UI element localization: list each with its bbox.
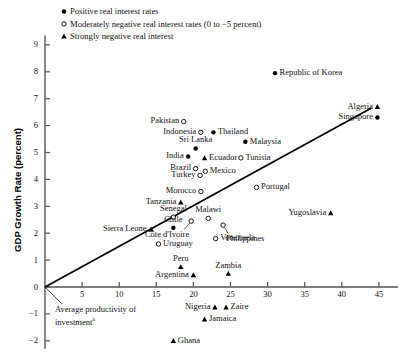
data-point-label-algeria: Algeria [347,102,373,111]
y-tick-label-−1: −1 [29,308,38,318]
data-point-label-pakistan: Pakistan [150,116,179,125]
y-tick-label-8: 8 [34,66,38,76]
data-point-label-republic-of-korea: Republic of Korea [280,68,343,77]
legend-label-0: Positive real interest rates [70,6,159,16]
data-point-label-india: India [166,151,183,160]
data-point-marker-singapore [375,115,379,119]
data-point-label-malaysia: Malaysia [250,137,281,146]
data-point-marker-morocco [199,189,203,193]
y-tick-label-4: 4 [34,174,38,184]
data-point-marker-zambia [226,271,231,276]
legend-label-2: Strongly negative real interest [70,31,173,41]
data-point-marker-portugal [254,185,258,189]
data-point-label-jamaica: Jamaica [209,314,236,323]
x-tick-label-45: 45 [375,289,384,299]
data-point-marker-philippines [221,223,225,227]
x-tick-label-10: 10 [115,289,124,299]
data-point-marker-sri-lanka [193,146,197,150]
data-point-label-yugoslavia: Yugoslavia [288,208,326,217]
data-point-label-venezuela: Venezuela [220,233,255,242]
data-point-marker-pakistan [182,119,186,123]
data-point-label-chile: Chile [164,215,182,224]
y-tick-label-1: 1 [34,255,38,265]
data-point-marker-tunisia [239,156,243,160]
data-point-label-malawi: Malawi [195,205,221,214]
y-tick-label-9: 9 [34,39,38,49]
data-point-label-senegal: Senegal [160,204,187,213]
data-point-label-argentina: Argentina [155,270,189,279]
y-tick-label-3: 3 [34,201,38,211]
data-point-marker-malawi [206,216,210,220]
x-tick-label-35: 35 [300,289,309,299]
data-point-label-nigeria: Nigeria [185,302,211,311]
data-point-marker-yugoslavia [328,210,333,215]
x-tick-label-30: 30 [263,289,272,299]
data-point-label-zambia: Zambia [215,261,241,270]
data-point-marker-zaire [223,304,228,309]
chart-figure: GDP Growth Rate (percent) 9876543210−1−2… [0,0,398,363]
data-point-marker-ghana [171,338,176,343]
data-point-label-ecuador: Ecuador [209,153,237,162]
y-tick-label-0: 0 [34,282,38,292]
y-tick-label-2: 2 [34,228,38,238]
data-point-label-singapore: Singapore [338,112,372,121]
data-point-label-tunisia: Tunisia [245,153,270,162]
data-point-marker-ecuador [202,155,207,160]
data-point-label-peru: Peru [173,254,189,263]
x-tick-label-25: 25 [226,289,235,299]
data-point-label-turkey: Turkey [171,170,195,179]
data-point-marker-jamaica [202,317,207,322]
data-point-label-thailand: Thailand [218,127,248,136]
x-tick-label-20: 20 [189,289,198,299]
data-point-marker-republic-of-korea [273,71,277,75]
data-point-label-ghana: Ghana [178,336,200,345]
data-point-label-sri-lanka: Sri Lanka [179,135,212,144]
data-point-label-uruguay: Uruguay [163,239,193,248]
trendline-caption-text: Average productivity of investment [55,304,136,327]
data-point-label-morocco: Morocco [166,186,197,195]
y-tick-label-6: 6 [34,120,38,130]
y-tick-label-5: 5 [34,147,38,157]
data-point-marker-nigeria [212,304,217,309]
data-point-label-zaire: Zaire [231,302,249,311]
data-point-marker-uruguay [156,242,160,246]
data-point-label-sierra-leone: Sierra Leone [103,224,147,233]
legend-marker-0 [62,9,66,13]
data-point-marker-india [186,154,190,158]
y-tick-label-7: 7 [34,93,38,103]
data-point-marker-argentina [191,272,196,277]
data-point-marker-mexico [203,169,207,173]
x-tick-label-15: 15 [152,289,161,299]
data-point-marker-turkey [198,173,202,177]
legend-label-1: Moderately negative real interest rates … [70,19,261,29]
legend-marker-1 [62,22,66,26]
x-tick-label-5: 5 [80,289,84,299]
legend-marker-2 [61,34,66,39]
data-point-marker-venezuela [213,236,217,240]
data-point-marker-c-te-d-ivoire [189,219,193,223]
trendline-caption: Average productivity of investmenta [55,304,155,327]
y-tick-label-−2: −2 [29,335,38,345]
trendline-caption-footnote: a [92,316,95,322]
data-point-marker-malaysia [243,140,247,144]
data-point-label-portugal: Portugal [261,182,290,191]
x-tick-label-40: 40 [338,289,347,299]
data-point-label-mexico: Mexico [210,166,236,175]
data-point-marker-algeria [375,104,380,109]
